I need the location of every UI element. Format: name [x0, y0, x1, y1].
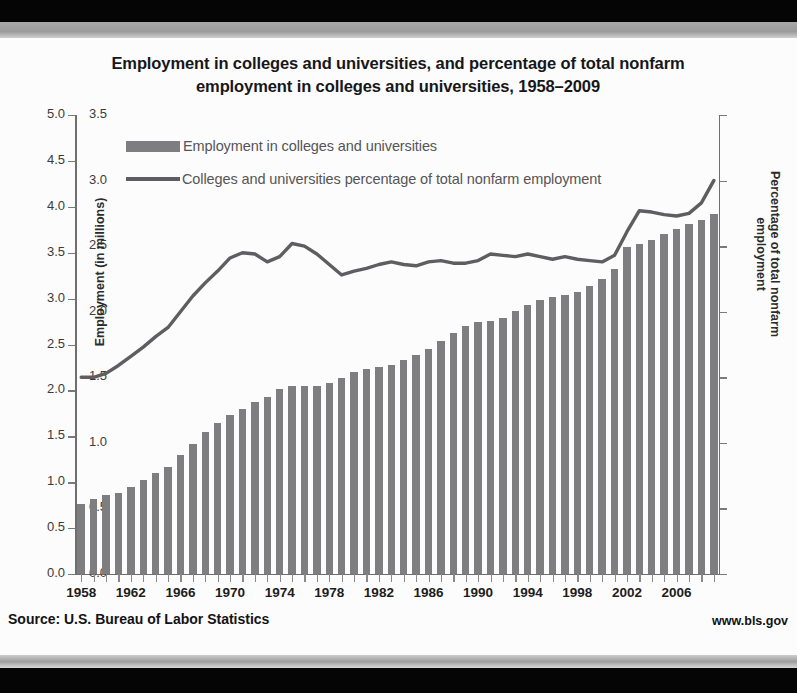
chart-title-line-1: Employment in colleges and universities,…	[48, 52, 748, 75]
y-tick-left	[68, 574, 75, 575]
x-tick	[304, 574, 305, 582]
x-tick	[714, 574, 715, 582]
y-tick-left	[68, 528, 75, 529]
x-tick	[565, 574, 566, 582]
x-tick	[466, 574, 467, 582]
x-tick	[664, 574, 665, 582]
x-tick	[677, 574, 678, 582]
y-tick-label-left: 5.0	[19, 106, 65, 121]
x-tick-label: 1966	[156, 585, 204, 600]
x-tick-label: 1978	[305, 585, 353, 600]
x-tick-label: 1990	[454, 585, 502, 600]
x-tick	[689, 574, 690, 582]
legend-bar-swatch-icon	[126, 141, 180, 152]
x-tick	[317, 574, 318, 582]
x-tick	[205, 574, 206, 582]
y-tick-left	[68, 299, 75, 300]
x-tick	[453, 574, 454, 582]
y-tick-left	[68, 345, 75, 346]
x-tick	[639, 574, 640, 582]
x-tick	[379, 574, 380, 582]
chart-page: Employment in colleges and universities,…	[0, 38, 797, 655]
y-tick-left	[68, 115, 75, 116]
y-tick-left	[68, 390, 75, 391]
y-tick-right	[720, 377, 727, 378]
x-tick	[156, 574, 157, 582]
x-tick	[168, 574, 169, 582]
y-tick-right	[720, 312, 727, 313]
x-tick	[329, 574, 330, 582]
legend-item-bars: Employment in colleges and universities	[126, 138, 601, 154]
x-tick	[627, 574, 628, 582]
y-tick-left	[68, 253, 75, 254]
x-tick	[553, 574, 554, 582]
chart-legend: Employment in colleges and universities …	[126, 138, 601, 204]
x-tick	[118, 574, 119, 582]
y-tick-label-left: 2.0	[19, 381, 65, 396]
x-tick	[491, 574, 492, 582]
y-axis-right-title: Percentage of total nonfarm employment	[754, 139, 782, 369]
y-tick-label-left: 2.5	[19, 336, 65, 351]
x-tick	[106, 574, 107, 582]
top-black-border	[0, 0, 797, 22]
x-tick	[416, 574, 417, 582]
x-tick	[255, 574, 256, 582]
y-tick-label-left: 4.0	[19, 198, 65, 213]
y-tick-right	[720, 246, 727, 247]
x-tick-label: 1986	[405, 585, 453, 600]
x-tick	[242, 574, 243, 582]
legend-bar-label: Employment in colleges and universities	[183, 138, 437, 154]
y-tick-right	[720, 443, 727, 444]
legend-item-line: Colleges and universities percentage of …	[126, 171, 601, 187]
y-tick-label-left: 1.5	[19, 427, 65, 442]
x-tick	[503, 574, 504, 582]
y-tick-right	[720, 181, 727, 182]
y-tick-left	[68, 207, 75, 208]
y-tick-left	[68, 436, 75, 437]
x-tick	[131, 574, 132, 582]
y-tick-left	[68, 161, 75, 162]
y-tick-left	[68, 482, 75, 483]
x-tick-label: 1982	[355, 585, 403, 600]
x-tick-label: 1974	[256, 585, 304, 600]
x-axis-ticks	[75, 574, 720, 583]
bottom-black-border	[0, 668, 797, 693]
x-tick	[478, 574, 479, 582]
bottom-gray-bar	[0, 655, 797, 668]
y-tick-label-left: 3.5	[19, 244, 65, 259]
x-tick	[94, 574, 95, 582]
x-axis-labels: 1958196219661970197419781982198619901994…	[75, 585, 720, 605]
y-tick-label-left: 1.0	[19, 473, 65, 488]
x-tick	[143, 574, 144, 582]
x-tick	[230, 574, 231, 582]
legend-line-swatch-icon	[126, 177, 180, 182]
x-tick	[652, 574, 653, 582]
x-tick	[602, 574, 603, 582]
x-tick	[267, 574, 268, 582]
y-tick-right	[720, 115, 727, 116]
x-tick	[292, 574, 293, 582]
x-tick	[342, 574, 343, 582]
x-tick-label: 1962	[107, 585, 155, 600]
y-tick-label-left: 0.0	[19, 565, 65, 580]
x-tick	[81, 574, 82, 582]
x-tick-label: 2002	[603, 585, 651, 600]
x-tick	[441, 574, 442, 582]
x-tick	[515, 574, 516, 582]
y-tick-label-left: 4.5	[19, 152, 65, 167]
x-tick	[577, 574, 578, 582]
screenshot-root: Employment in colleges and universities,…	[0, 0, 797, 693]
x-tick-label: 1998	[553, 585, 601, 600]
x-tick-label: 2006	[653, 585, 701, 600]
website-note: www.bls.gov	[712, 614, 788, 628]
x-tick	[218, 574, 219, 582]
y-tick-label-left: 0.5	[19, 519, 65, 534]
x-tick	[391, 574, 392, 582]
y-tick-right	[720, 508, 727, 509]
source-note: Source: U.S. Bureau of Labor Statistics	[8, 611, 269, 627]
chart-title: Employment in colleges and universities,…	[48, 52, 748, 99]
x-tick	[180, 574, 181, 582]
x-tick	[280, 574, 281, 582]
x-tick	[404, 574, 405, 582]
x-tick-label: 1958	[57, 585, 105, 600]
